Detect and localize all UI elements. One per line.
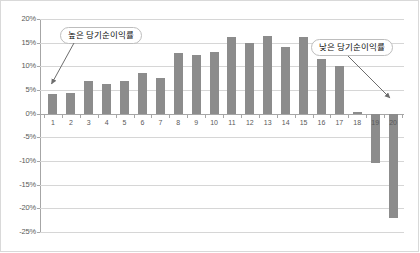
x-axis-label-15: 15 [296, 119, 312, 126]
x-axis-label-16: 16 [313, 119, 329, 126]
x-axis-label-19: 19 [367, 119, 383, 126]
x-tick [80, 114, 81, 118]
x-axis-label-18: 18 [349, 119, 365, 126]
x-axis-label-7: 7 [152, 119, 168, 126]
y-axis-label: -20% [3, 203, 36, 212]
gridline--25% [40, 232, 404, 233]
chart-root: 20%15%10%5%0%-5%-10%-15%-20%-25% 1234567… [0, 0, 420, 253]
y-tick [37, 137, 40, 138]
x-axis-label-11: 11 [224, 119, 240, 126]
x-tick [116, 114, 117, 118]
x-axis-label-13: 13 [260, 119, 276, 126]
y-axis-label: -5% [3, 132, 36, 141]
y-axis-label: 0% [3, 109, 36, 118]
callout-low-profit-margin: 낮은 당기순이익률 [311, 39, 393, 56]
x-tick [259, 114, 260, 118]
y-axis-label: 15% [3, 38, 36, 47]
x-tick [348, 114, 349, 118]
y-axis-label: 5% [3, 85, 36, 94]
x-axis-label-9: 9 [188, 119, 204, 126]
x-tick [223, 114, 224, 118]
x-axis-label-12: 12 [242, 119, 258, 126]
y-tick [37, 185, 40, 186]
x-axis-label-10: 10 [206, 119, 222, 126]
y-tick [37, 161, 40, 162]
x-tick [402, 114, 403, 118]
x-tick [62, 114, 63, 118]
callout-high-profit-margin: 높은 당기순이익률 [60, 27, 142, 44]
x-axis-label-3: 3 [81, 119, 97, 126]
x-tick [44, 114, 45, 118]
y-tick [37, 114, 40, 115]
x-tick [134, 114, 135, 118]
x-tick [277, 114, 278, 118]
x-tick [241, 114, 242, 118]
y-tick [37, 208, 40, 209]
x-tick [313, 114, 314, 118]
x-axis-label-5: 5 [117, 119, 133, 126]
x-axis-label-4: 4 [99, 119, 115, 126]
y-tick [37, 232, 40, 233]
x-tick [330, 114, 331, 118]
x-tick [151, 114, 152, 118]
x-axis-label-8: 8 [170, 119, 186, 126]
y-axis-label: 20% [3, 14, 36, 23]
y-tick [37, 66, 40, 67]
x-tick [295, 114, 296, 118]
x-axis-label-17: 17 [331, 119, 347, 126]
x-tick [384, 114, 385, 118]
y-axis-label: -25% [3, 227, 36, 236]
y-tick [37, 90, 40, 91]
x-tick [366, 114, 367, 118]
x-axis-label-1: 1 [45, 119, 61, 126]
y-axis-label: -15% [3, 180, 36, 189]
x-axis-label-2: 2 [63, 119, 79, 126]
x-tick [98, 114, 99, 118]
x-tick [187, 114, 188, 118]
x-tick [205, 114, 206, 118]
x-axis-label-20: 20 [385, 119, 401, 126]
y-tick [37, 19, 40, 20]
x-tick [169, 114, 170, 118]
y-axis-label: -10% [3, 156, 36, 165]
y-tick [37, 43, 40, 44]
x-axis-label-14: 14 [278, 119, 294, 126]
x-axis-label-6: 6 [134, 119, 150, 126]
y-axis-label: 10% [3, 61, 36, 70]
